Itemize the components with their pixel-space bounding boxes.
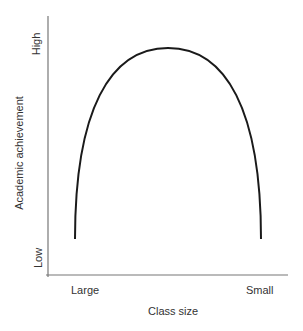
x-tick-small: Small xyxy=(246,284,274,296)
x-axis-label: Class size xyxy=(148,305,198,317)
y-tick-high: High xyxy=(30,33,42,56)
y-axis-label: Academic achievement xyxy=(13,96,25,210)
chart-canvas xyxy=(0,0,303,331)
x-tick-large: Large xyxy=(71,284,99,296)
y-tick-low: Low xyxy=(32,248,44,268)
inverted-u-curve xyxy=(75,48,261,239)
